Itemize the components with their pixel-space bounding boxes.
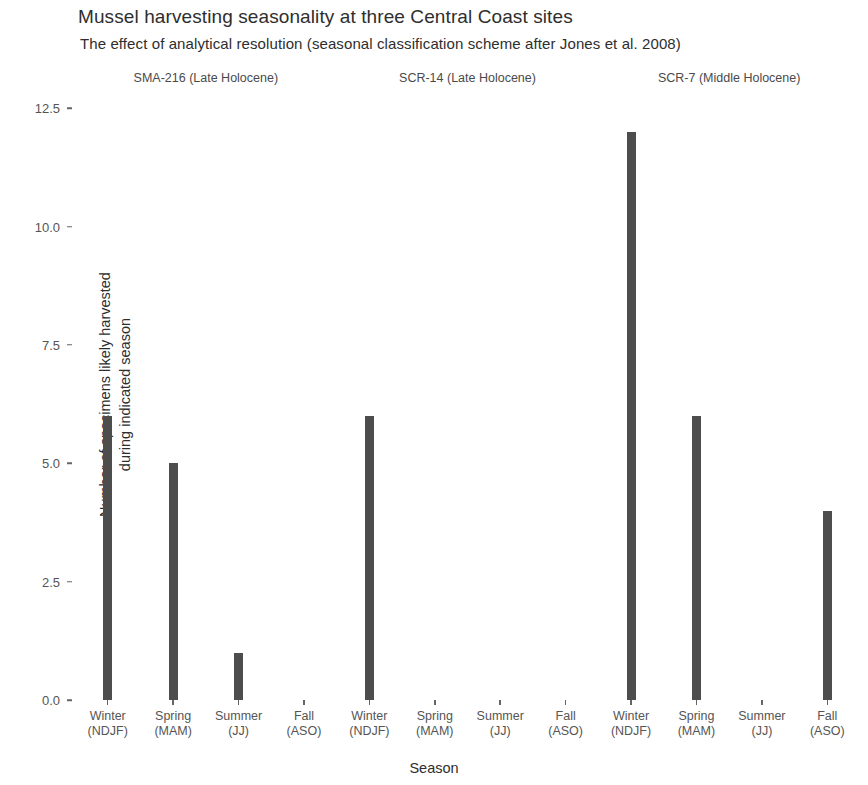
plot-panel: [75, 94, 860, 700]
x-tick-fall: Fall(ASO): [533, 700, 598, 758]
x-tick-label-season: Spring: [155, 709, 191, 724]
x-tick-label-months: (ASO): [548, 724, 583, 739]
x-tick-winter: Winter(NDJF): [337, 700, 402, 758]
facet-panel-2: [337, 94, 599, 700]
x-tick-fall: Fall(ASO): [795, 700, 860, 758]
x-axis-ticks: Winter(NDJF)Spring(MAM)Summer(JJ)Fall(AS…: [75, 700, 860, 758]
x-tick-label-season: Fall: [556, 709, 576, 724]
x-tick-label-months: (MAM): [416, 724, 454, 739]
bar-slot: [140, 94, 205, 700]
x-tick-label-months: (ASO): [810, 724, 845, 739]
chart-figure: Mussel harvesting seasonality at three C…: [0, 0, 868, 785]
x-tick-label-months: (JJ): [228, 724, 249, 739]
x-tick-mark: [565, 700, 567, 705]
x-tick-label-season: Spring: [417, 709, 453, 724]
x-tick-fall: Fall(ASO): [271, 700, 336, 758]
facet-strip-row: SMA-216 (Late Holocene)SCR-14 (Late Holo…: [75, 68, 860, 88]
bar-slot: [598, 94, 663, 700]
x-tick-mark: [827, 700, 829, 705]
x-tick-mark: [303, 700, 305, 705]
x-tick-summer: Summer(JJ): [729, 700, 794, 758]
x-tick-label-months: (JJ): [751, 724, 772, 739]
facet-strip-label-3: SCR-7 (Middle Holocene): [598, 68, 860, 88]
facet-panel-3: [598, 94, 860, 700]
bar-slot: [533, 94, 598, 700]
y-tick-mark: [67, 581, 72, 583]
facet-strip-label-1: SMA-216 (Late Holocene): [75, 68, 337, 88]
x-axis-title: Season: [0, 760, 868, 776]
x-tick-spring: Spring(MAM): [664, 700, 729, 758]
bar[interactable]: [169, 463, 178, 700]
y-tick-mark: [67, 344, 72, 346]
x-tick-label-season: Summer: [477, 709, 524, 724]
x-tick-mark: [696, 700, 698, 705]
chart-title: Mussel harvesting seasonality at three C…: [78, 6, 573, 28]
bar[interactable]: [627, 132, 636, 700]
bar-slot: [75, 94, 140, 700]
x-tick-summer: Summer(JJ): [206, 700, 271, 758]
y-tick-mark: [67, 226, 72, 228]
x-tick-mark: [761, 700, 763, 705]
x-tick-spring: Spring(MAM): [140, 700, 205, 758]
x-tick-label-season: Winter: [90, 709, 126, 724]
x-tick-label-months: (MAM): [678, 724, 716, 739]
facet-panel-1: [75, 94, 337, 700]
x-tick-label-season: Summer: [215, 709, 262, 724]
y-tick-label-7.5: 7.5: [42, 337, 60, 352]
x-tick-summer: Summer(JJ): [468, 700, 533, 758]
x-tick-label-season: Fall: [817, 709, 837, 724]
x-tick-mark: [238, 700, 240, 705]
chart-subtitle: The effect of analytical resolution (sea…: [80, 35, 681, 52]
x-tick-label-season: Winter: [351, 709, 387, 724]
x-tick-label-season: Fall: [294, 709, 314, 724]
y-tick-label-5.0: 5.0: [42, 456, 60, 471]
y-tick-label-12.5: 12.5: [35, 101, 60, 116]
x-tick-label-season: Spring: [678, 709, 714, 724]
y-tick-mark: [67, 699, 72, 701]
y-axis-ticks: 0.02.55.07.510.012.5: [0, 0, 72, 785]
y-tick-label-0.0: 0.0: [42, 693, 60, 708]
bar-slot: [664, 94, 729, 700]
x-tick-label-months: (NDJF): [88, 724, 128, 739]
facet-strip-label-2: SCR-14 (Late Holocene): [337, 68, 599, 88]
x-axis-facet-2: Winter(NDJF)Spring(MAM)Summer(JJ)Fall(AS…: [337, 700, 599, 758]
x-tick-mark: [499, 700, 501, 705]
x-tick-spring: Spring(MAM): [402, 700, 467, 758]
bar[interactable]: [234, 653, 243, 700]
bar[interactable]: [365, 416, 374, 700]
x-tick-label-months: (MAM): [154, 724, 192, 739]
bar-slot: [206, 94, 271, 700]
x-tick-label-season: Summer: [738, 709, 785, 724]
x-tick-label-season: Winter: [613, 709, 649, 724]
x-axis-facet-3: Winter(NDJF)Spring(MAM)Summer(JJ)Fall(AS…: [598, 700, 860, 758]
x-tick-mark: [434, 700, 436, 705]
x-tick-label-months: (NDJF): [349, 724, 389, 739]
x-tick-label-months: (ASO): [287, 724, 322, 739]
bar[interactable]: [692, 416, 701, 700]
bar-slot: [729, 94, 794, 700]
x-tick-mark: [107, 700, 109, 705]
x-tick-mark: [630, 700, 632, 705]
y-tick-mark: [67, 107, 72, 109]
x-tick-winter: Winter(NDJF): [75, 700, 140, 758]
x-tick-mark: [369, 700, 371, 705]
x-tick-label-months: (NDJF): [611, 724, 651, 739]
bar-slot: [271, 94, 336, 700]
x-tick-mark: [172, 700, 174, 705]
x-axis-facet-1: Winter(NDJF)Spring(MAM)Summer(JJ)Fall(AS…: [75, 700, 337, 758]
y-tick-label-10.0: 10.0: [35, 219, 60, 234]
bar[interactable]: [103, 416, 112, 700]
x-tick-label-months: (JJ): [490, 724, 511, 739]
y-tick-label-2.5: 2.5: [42, 574, 60, 589]
bar-slot: [795, 94, 860, 700]
x-tick-winter: Winter(NDJF): [598, 700, 663, 758]
bar-slot: [402, 94, 467, 700]
y-tick-mark: [67, 463, 72, 465]
bar-slot: [468, 94, 533, 700]
bar-slot: [337, 94, 402, 700]
bar[interactable]: [823, 511, 832, 700]
